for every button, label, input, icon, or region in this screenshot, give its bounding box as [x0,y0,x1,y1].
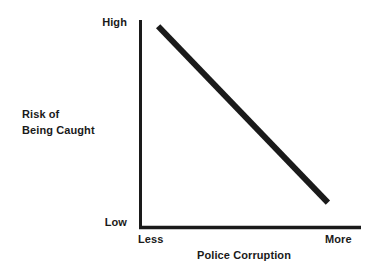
chart-axes-graphic [0,0,379,277]
y-axis-title: Risk of Being Caught [22,106,95,138]
x-axis-title: Police Corruption [197,249,291,262]
y-axis-tick-label-high: High [102,16,127,29]
y-axis-title-line-2: Being Caught [22,122,95,138]
chart-figure: High Low Risk of Being Caught Less More … [0,0,379,277]
y-axis-title-line-1: Risk of [22,106,95,122]
trend-line [158,26,328,202]
x-axis-tick-label-less: Less [138,233,163,246]
y-axis-tick-label-low: Low [105,216,127,229]
x-axis-tick-label-more: More [325,233,352,246]
